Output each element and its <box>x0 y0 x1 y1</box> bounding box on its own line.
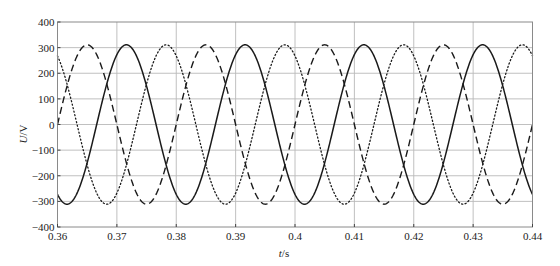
y-tick-label: −400 <box>32 221 55 233</box>
y-tick-label: 400 <box>38 16 55 28</box>
x-tick-label: 0.39 <box>226 230 246 242</box>
x-tick-label: 0.41 <box>345 230 364 242</box>
voltage-waveform-chart: 0.360.370.380.390.40.410.420.430.44 4003… <box>0 0 560 266</box>
chart-canvas: 0.360.370.380.390.40.410.420.430.44 4003… <box>0 0 560 266</box>
x-tick-label: 0.44 <box>523 230 543 242</box>
y-tick-label: 100 <box>38 93 55 105</box>
y-tick-label: −300 <box>32 195 55 207</box>
y-axis-ticks: 4003002001000−100−200−300−400 <box>32 16 61 233</box>
y-axis-label-unit: /V <box>17 124 29 135</box>
x-tick-label: 0.38 <box>167 230 187 242</box>
y-tick-label: 300 <box>38 42 55 54</box>
y-tick-label: 0 <box>49 119 55 131</box>
x-tick-label: 0.37 <box>107 230 127 242</box>
x-tick-label: 0.42 <box>404 230 423 242</box>
y-tick-label: −200 <box>32 170 55 182</box>
y-tick-label: −100 <box>32 144 55 156</box>
x-axis-label: t/s <box>279 247 289 259</box>
x-tick-label: 0.43 <box>464 230 484 242</box>
x-axis-label-unit: /s <box>282 247 289 259</box>
y-axis-label: U/V <box>17 124 29 143</box>
y-tick-label: 200 <box>38 67 55 79</box>
x-tick-label: 0.4 <box>288 230 302 242</box>
